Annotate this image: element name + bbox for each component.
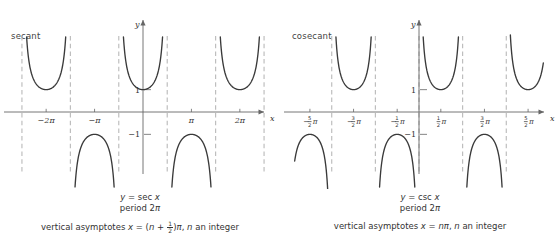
- x-axis-tick-label-numerator: 5: [308, 115, 311, 121]
- cosecant-period-pi: π: [435, 203, 440, 213]
- function-branch: [27, 37, 66, 90]
- x-axis-arrowhead: [259, 109, 265, 114]
- y-axis-label: y: [410, 20, 416, 29]
- x-axis-tick-label-pi: π: [312, 117, 318, 126]
- x-axis-tick-label: −2π: [38, 116, 56, 125]
- cosecant-eq-rhs: csc: [418, 192, 432, 202]
- y-axis-tick-label: −1: [128, 130, 140, 139]
- cosecant-asym-prefix: vertical asymptotes: [334, 221, 421, 231]
- x-axis-tick-label-pi: π: [528, 117, 534, 126]
- secant-asymptote-caption: vertical asymptotes x = (n + 12)π, n an …: [0, 221, 280, 234]
- x-axis-label: x: [550, 114, 555, 123]
- secant-period-caption: period 2π: [0, 203, 280, 213]
- x-axis-tick-label-pi: π: [441, 117, 447, 126]
- secant-period-text: period 2: [120, 203, 155, 213]
- cosecant-period-text: period 2: [400, 203, 435, 213]
- x-axis-tick-label-pi: π: [355, 117, 361, 126]
- x-axis-tick-label-numerator: 3: [352, 115, 355, 121]
- secant-panel: secant xy−2π−ππ2π1−1 y = sec x period 2π…: [0, 0, 280, 241]
- x-axis-tick-label-pi: π: [399, 117, 405, 126]
- function-branch: [75, 134, 114, 187]
- cosecant-eq-var: x: [432, 192, 440, 202]
- x-axis-tick-label: −12π: [391, 115, 405, 128]
- x-axis-tick-label: π: [188, 116, 195, 125]
- secant-asym-fraction: 12: [167, 221, 173, 234]
- cosecant-asymptote-caption: vertical asymptotes x = nπ, n an integer: [280, 221, 560, 231]
- secant-equation-caption: y = sec x: [0, 192, 280, 202]
- function-branch: [380, 134, 415, 187]
- cosecant-asym-equals: =: [426, 221, 439, 231]
- cosecant-asym-tail: an integer: [460, 221, 506, 231]
- y-axis-arrowhead: [416, 20, 421, 26]
- y-axis-arrowhead: [140, 20, 145, 26]
- y-axis-tick-label: −1: [404, 130, 416, 139]
- function-branch: [467, 134, 502, 187]
- x-axis-tick-label-denominator: 2: [437, 122, 440, 128]
- x-axis-tick-label: −32π: [347, 115, 361, 128]
- secant-asym-tail: an integer: [193, 222, 239, 232]
- secant-period-pi: π: [155, 203, 160, 213]
- x-axis-tick-label-denominator: 2: [395, 122, 398, 128]
- cosecant-graph-svg: xy−52π−32π−12π12π32π52π1−1: [280, 14, 560, 189]
- function-branch: [295, 134, 328, 189]
- x-axis-tick-label-denominator: 2: [352, 122, 355, 128]
- x-axis-tick-label-numerator: 1: [437, 115, 440, 121]
- cosecant-equation-caption: y = csc x: [280, 192, 560, 202]
- secant-asym-plus: +: [154, 222, 167, 232]
- x-axis-tick-label-numerator: 1: [395, 115, 398, 121]
- secant-eq-rhs: sec: [138, 192, 152, 202]
- x-axis-tick-label-pi: π: [484, 117, 490, 126]
- trig-reciprocal-functions-figure: secant xy−2π−ππ2π1−1 y = sec x period 2π…: [0, 0, 560, 241]
- cosecant-panel: cosecant xy−52π−32π−12π12π32π52π1−1 y = …: [280, 0, 560, 241]
- x-axis-tick-label: −π: [89, 116, 102, 125]
- secant-asym-prefix: vertical asymptotes: [41, 222, 128, 232]
- x-axis-tick-label: 2π: [234, 116, 246, 125]
- secant-asym-equals: = (: [133, 222, 149, 232]
- secant-asym-frac-denominator: 2: [167, 227, 173, 234]
- x-axis-tick-label-denominator: 2: [524, 122, 527, 128]
- x-axis-tick-label-denominator: 2: [480, 122, 483, 128]
- x-axis-tick-label: −52π: [303, 115, 317, 128]
- secant-eq-var: x: [152, 192, 160, 202]
- secant-eq-equals: =: [125, 192, 138, 202]
- x-axis-tick-label: 12π: [437, 115, 447, 128]
- function-branch: [172, 134, 211, 187]
- secant-graph-svg: xy−2π−ππ2π1−1: [0, 14, 280, 189]
- x-axis-tick-label: 32π: [480, 115, 490, 128]
- x-axis-arrowhead: [539, 109, 545, 114]
- x-axis-label: x: [270, 114, 275, 123]
- function-branch: [510, 35, 543, 90]
- cosecant-eq-equals: =: [405, 192, 418, 202]
- secant-plot: xy−2π−ππ2π1−1: [0, 14, 280, 189]
- x-axis-tick-label: 52π: [524, 115, 534, 128]
- x-axis-tick-label-numerator: 3: [480, 115, 483, 121]
- x-axis-tick-label-denominator: 2: [308, 122, 311, 128]
- function-branch: [220, 37, 259, 90]
- y-axis-tick-label: 1: [411, 86, 416, 95]
- cosecant-period-caption: period 2π: [280, 203, 560, 213]
- cosecant-plot: xy−52π−32π−12π12π32π52π1−1: [280, 14, 560, 189]
- x-axis-tick-label-numerator: 5: [524, 115, 527, 121]
- function-branch: [336, 37, 371, 90]
- function-branch: [423, 37, 458, 90]
- y-axis-label: y: [134, 20, 140, 29]
